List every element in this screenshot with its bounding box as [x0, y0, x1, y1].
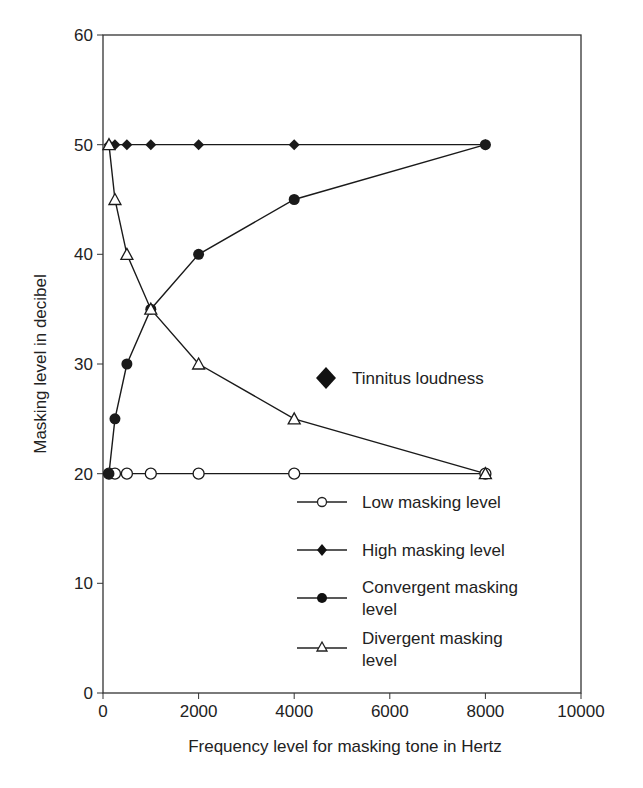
y-tick: 10: [74, 574, 103, 593]
svg-text:50: 50: [74, 136, 93, 155]
svg-text:level: level: [362, 651, 397, 670]
legend: Low masking level High masking level Con…: [297, 493, 518, 670]
svg-text:Low masking level: Low masking level: [362, 493, 501, 512]
tinnitus-diamond-icon: [316, 367, 336, 389]
data-point-marker: [109, 194, 121, 205]
y-tick: 60: [74, 26, 103, 45]
svg-text:level: level: [362, 600, 397, 619]
svg-text:0: 0: [98, 702, 107, 721]
svg-text:60: 60: [74, 26, 93, 45]
filled-diamond-icon: [317, 544, 327, 556]
y-tick: 30: [74, 355, 103, 374]
legend-item-divergent: Divergent masking level: [297, 629, 503, 670]
data-point-marker: [121, 248, 133, 259]
open-triangle-icon: [317, 642, 327, 651]
data-point-marker: [193, 249, 204, 260]
svg-text:40: 40: [74, 245, 93, 264]
data-point-marker: [109, 413, 120, 424]
svg-text:10: 10: [74, 574, 93, 593]
y-axis: 0 10 20 30 40 50 60: [74, 26, 103, 703]
data-point-marker: [288, 413, 300, 424]
data-point-marker: [121, 139, 132, 150]
x-axis: 0 2000 4000 6000 8000 10000: [98, 693, 604, 721]
svg-text:20: 20: [74, 465, 93, 484]
y-tick: 40: [74, 245, 103, 264]
legend-item-high: High masking level: [297, 541, 505, 560]
x-tick: 2000: [180, 693, 218, 721]
legend-item-low: Low masking level: [297, 493, 501, 512]
y-tick: 0: [84, 684, 103, 703]
svg-text:2000: 2000: [180, 702, 218, 721]
svg-text:30: 30: [74, 355, 93, 374]
svg-text:0: 0: [84, 684, 93, 703]
data-point-marker: [289, 468, 300, 479]
x-tick: 6000: [371, 693, 409, 721]
x-tick: 0: [98, 693, 107, 721]
svg-text:6000: 6000: [371, 702, 409, 721]
svg-text:8000: 8000: [466, 702, 504, 721]
y-tick: 50: [74, 136, 103, 155]
x-axis-title: Frequency level for masking tone in Hert…: [188, 737, 502, 756]
svg-text:High masking level: High masking level: [362, 541, 505, 560]
svg-text:10000: 10000: [557, 702, 604, 721]
tinnitus-annotation: Tinnitus loudness: [316, 367, 484, 389]
data-point-marker: [289, 194, 300, 205]
data-point-marker: [103, 468, 114, 479]
y-tick: 20: [74, 465, 103, 484]
x-tick: 10000: [557, 693, 604, 721]
svg-text:Convergent masking: Convergent masking: [362, 578, 518, 597]
legend-item-convergent: Convergent masking level: [297, 578, 518, 619]
data-point-marker: [145, 139, 156, 150]
data-point-marker: [145, 468, 156, 479]
data-point-marker: [121, 468, 132, 479]
data-point-marker: [193, 468, 204, 479]
filled-circle-icon: [317, 593, 327, 603]
data-point-marker: [289, 139, 300, 150]
open-circle-icon: [318, 498, 327, 507]
data-point-marker: [121, 359, 132, 370]
data-point-marker: [480, 139, 491, 150]
y-axis-title: Masking level in decibel: [31, 274, 50, 454]
x-tick: 4000: [275, 693, 313, 721]
svg-text:Divergent masking: Divergent masking: [362, 629, 503, 648]
svg-text:Tinnitus loudness: Tinnitus loudness: [352, 369, 484, 388]
x-tick: 8000: [466, 693, 504, 721]
chart: 0 10 20 30 40 50 60 0 2000 4000 6000 800…: [0, 0, 643, 788]
svg-text:4000: 4000: [275, 702, 313, 721]
series-layer: [103, 139, 491, 480]
data-point-marker: [193, 139, 204, 150]
